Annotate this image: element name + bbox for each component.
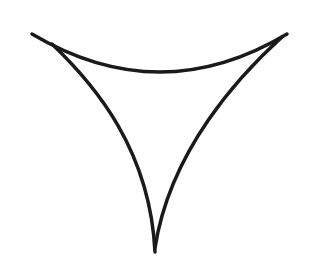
left-arc [52, 44, 155, 252]
right-arc [155, 37, 282, 248]
top-arc [32, 34, 287, 72]
curved-triangle-figure [0, 0, 321, 277]
